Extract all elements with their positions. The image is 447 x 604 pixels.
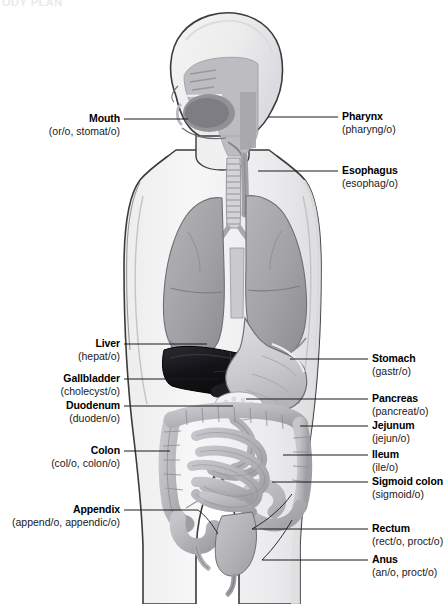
label-root: (ile/o) [372, 461, 399, 474]
label-term: Ileum [372, 448, 399, 461]
label-anus: Anus(an/o, proct/o) [372, 553, 437, 578]
label-term: Pancreas [372, 392, 429, 405]
label-root: (esophag/o) [342, 177, 398, 190]
label-root: (pharyng/o) [342, 123, 396, 136]
label-ileum: Ileum(ile/o) [372, 448, 399, 473]
label-pharynx: Pharynx(pharyng/o) [342, 110, 396, 135]
label-term: Jejunum [372, 419, 414, 432]
label-root: (duoden/o) [66, 412, 120, 425]
label-term: Sigmoid colon [372, 475, 443, 488]
label-esophagus: Esophagus(esophag/o) [342, 164, 398, 189]
label-rectum: Rectum(rect/o, proct/o) [372, 522, 443, 547]
label-mouth: Mouth(or/o, stomat/o) [49, 112, 120, 137]
label-jejunum: Jejunum(jejun/o) [372, 419, 414, 444]
label-term: Liver [78, 337, 120, 350]
digestive-system-figure: ODY PLAN [0, 0, 447, 604]
label-term: Rectum [372, 522, 443, 535]
label-root: (rect/o, proct/o) [372, 535, 443, 548]
label-root: (gastr/o) [372, 365, 416, 378]
label-term: Mouth [49, 112, 120, 125]
label-term: Pharynx [342, 110, 396, 123]
label-term: Esophagus [342, 164, 398, 177]
label-term: Stomach [372, 352, 416, 365]
label-term: Gallbladder [60, 372, 120, 385]
label-root: (sigmoid/o) [372, 488, 443, 501]
label-root: (or/o, stomat/o) [49, 125, 120, 138]
label-root: (col/o, colon/o) [51, 457, 120, 470]
label-stomach: Stomach(gastr/o) [372, 352, 416, 377]
label-term: Anus [372, 553, 437, 566]
label-pancreas: Pancreas(pancreat/o) [372, 392, 429, 417]
label-root: (jejun/o) [372, 432, 414, 445]
label-term: Appendix [12, 503, 120, 516]
label-liver: Liver(hepat/o) [78, 337, 120, 362]
label-root: (pancreat/o) [372, 405, 429, 418]
label-colon: Colon(col/o, colon/o) [51, 444, 120, 469]
label-term: Colon [51, 444, 120, 457]
label-duodenum: Duodenum(duoden/o) [66, 399, 120, 424]
label-term: Duodenum [66, 399, 120, 412]
label-sigmoid-colon: Sigmoid colon(sigmoid/o) [372, 475, 443, 500]
label-appendix: Appendix(append/o, appendic/o) [12, 503, 120, 528]
label-gallbladder: Gallbladder(cholecyst/o) [60, 372, 120, 397]
label-root: (append/o, appendic/o) [12, 516, 120, 529]
label-root: (an/o, proct/o) [372, 566, 437, 579]
label-root: (cholecyst/o) [60, 385, 120, 398]
label-root: (hepat/o) [78, 350, 120, 363]
